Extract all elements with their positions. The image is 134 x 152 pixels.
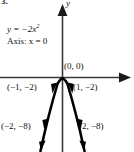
parabola-figure: 3. y y = −2x2 Axis: x = 0 (0, 0) bbox=[0, 0, 134, 152]
point-label-right-2: (2, −8) bbox=[79, 122, 104, 131]
point-label-right-1: (1, −2) bbox=[73, 83, 98, 92]
equation-text: y = −2x bbox=[7, 24, 36, 34]
point-label-vertex: (0, 0) bbox=[64, 62, 84, 71]
x-axis-arrow-icon bbox=[119, 73, 131, 83]
equation-exponent: 2 bbox=[36, 22, 39, 29]
axis-of-symmetry-label: Axis: x = 0 bbox=[7, 37, 47, 46]
point-label-left-2: (−2, −8) bbox=[1, 122, 31, 131]
equation-label: y = −2x2 bbox=[7, 23, 39, 34]
y-axis-label: y bbox=[66, 0, 70, 8]
point-label-left-1: (−1, −2) bbox=[7, 83, 37, 92]
